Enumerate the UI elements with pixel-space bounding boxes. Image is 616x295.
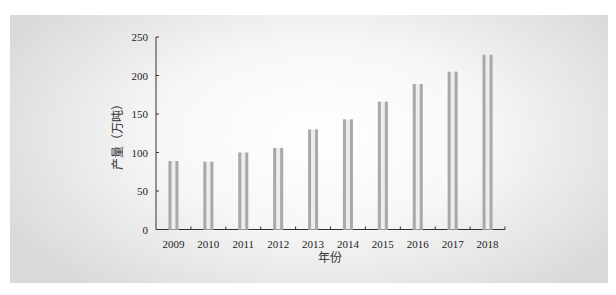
x-tick-label: 2013 bbox=[302, 238, 325, 250]
x-tick-label: 2009 bbox=[162, 238, 185, 250]
x-tick-label: 2017 bbox=[442, 238, 465, 250]
y-tick-label: 200 bbox=[132, 70, 149, 82]
y-tick-label: 100 bbox=[132, 147, 149, 159]
x-tick-label: 2011 bbox=[232, 238, 254, 250]
y-tick-label: 0 bbox=[143, 224, 149, 236]
bar bbox=[483, 55, 493, 230]
bars bbox=[168, 55, 492, 230]
x-axis: 2009201020112012201320142015201620172018 bbox=[156, 227, 505, 250]
bar bbox=[273, 148, 283, 230]
bar bbox=[238, 153, 248, 230]
bar bbox=[378, 102, 388, 230]
x-tick-label: 2014 bbox=[337, 238, 360, 250]
x-tick-label: 2015 bbox=[372, 238, 395, 250]
bar bbox=[308, 129, 318, 229]
x-axis-title: 年份 bbox=[318, 251, 342, 265]
y-axis-title: 产量（万吨） bbox=[111, 98, 125, 170]
bar bbox=[343, 119, 353, 229]
x-tick-label: 2012 bbox=[267, 238, 289, 250]
x-tick-label: 2018 bbox=[477, 238, 500, 250]
bar-chart: 050100150200250 200920102011201220132014… bbox=[0, 0, 616, 295]
bar bbox=[448, 72, 458, 230]
y-tick-label: 50 bbox=[137, 185, 149, 197]
x-tick-label: 2016 bbox=[407, 238, 430, 250]
bar bbox=[168, 161, 178, 230]
x-tick-label: 2010 bbox=[197, 238, 220, 250]
bar bbox=[413, 84, 423, 230]
y-axis: 050100150200250 bbox=[132, 31, 160, 236]
y-tick-label: 250 bbox=[132, 31, 149, 43]
bar bbox=[203, 162, 213, 230]
y-tick-label: 150 bbox=[132, 108, 149, 120]
